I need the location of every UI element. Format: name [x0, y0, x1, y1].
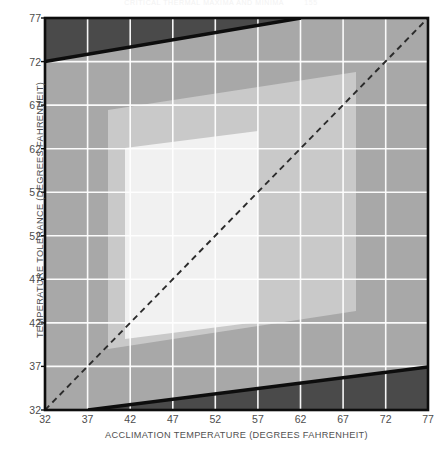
y-axis-title: TEMPERATURE TOLERANCE (DEGREES FAHRENHEI…: [35, 20, 45, 400]
figure: CRITICAL THERMAL MAXIMA AND MINIMA 155: [0, 0, 442, 450]
x-tick-77: 77: [408, 414, 442, 425]
x-tick-67: 67: [323, 414, 363, 425]
x-tick-32: 32: [25, 414, 65, 425]
x-tick-62: 62: [281, 414, 321, 425]
x-tick-52: 52: [195, 414, 235, 425]
x-tick-72: 72: [366, 414, 406, 425]
x-tick-42: 42: [110, 414, 150, 425]
plot-area: [0, 0, 442, 450]
x-tick-47: 47: [153, 414, 193, 425]
x-axis-tick-labels: 32 37 42 47 52 57 62 67 72 77: [0, 414, 442, 430]
x-axis-title: ACCLIMATION TEMPERATURE (DEGREES FAHRENH…: [45, 430, 428, 440]
x-tick-37: 37: [68, 414, 108, 425]
x-tick-57: 57: [238, 414, 278, 425]
